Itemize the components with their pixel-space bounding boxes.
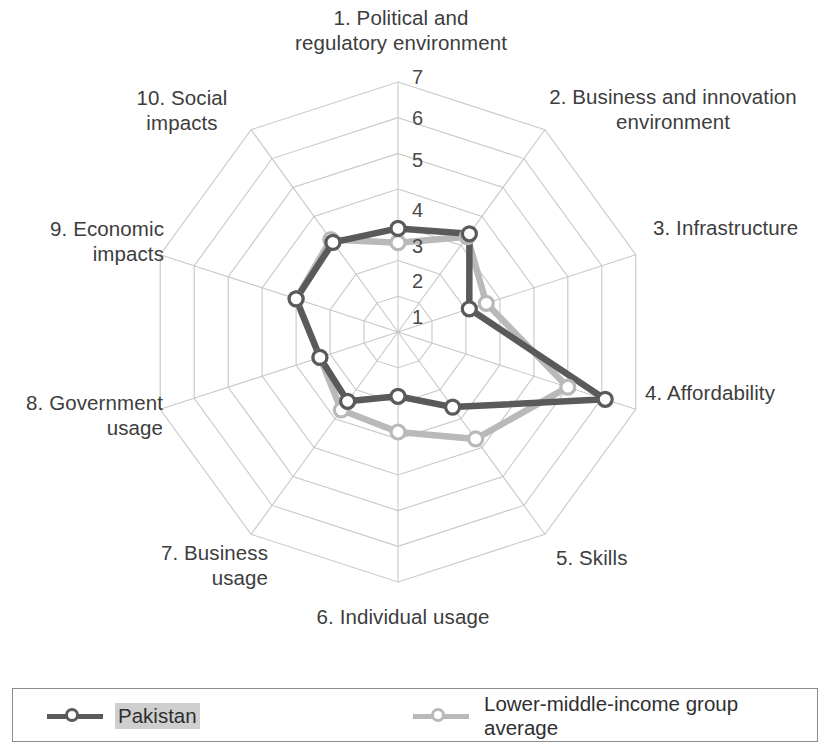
data-point-marker [391,221,405,235]
data-point-marker [561,380,575,394]
legend-item-pakistan: Pakistan [47,689,200,743]
grid-spoke-9 [160,255,398,332]
axis-label-infrastructure: 3. Infrastructure [653,215,833,240]
axis-label-skills: 5. Skills [556,545,706,570]
tick-label-1: 1 [412,307,423,327]
tick-label-4: 4 [412,200,423,220]
data-point-marker [391,236,405,250]
axis-label-government-usage: 8. Government usage [0,390,163,440]
axis-label-economic-impacts: 9. Economic impacts [4,216,164,266]
axis-label-social-impacts: 10. Social impacts [112,85,252,135]
axis-label-affordability: 4. Affordability [645,380,833,405]
legend-label-pakistan: Pakistan [115,703,200,729]
chart-legend: Pakistan Lower-middle-income group avera… [12,688,818,742]
axis-label-business-innovation-environment: 2. Business and innovation environment [527,84,819,134]
data-point-marker [446,400,460,414]
data-point-marker [391,425,405,439]
data-point-marker [598,392,612,406]
axis-label-political-regulatory-environment: 1. Political and regulatory environment [286,5,516,55]
data-point-marker [462,302,476,316]
legend-label-lower-middle-income: Lower-middle-income group average [481,691,817,741]
data-point-marker [469,432,483,446]
radar-chart-figure: 1 2 3 4 5 6 7 1. Political and regulator… [0,0,833,754]
data-point-marker [391,389,405,403]
data-point-marker [326,235,340,249]
tick-label-5: 5 [412,150,423,170]
legend-item-lower-middle-income: Lower-middle-income group average [413,689,817,743]
tick-label-2: 2 [412,271,423,291]
legend-swatch-pakistan [47,705,103,727]
data-point-marker [462,227,476,241]
tick-label-7: 7 [412,67,423,87]
legend-swatch-lower-middle-income [413,705,469,727]
data-point-marker [479,296,493,310]
tick-label-6: 6 [412,108,423,128]
axis-label-individual-usage: 6. Individual usage [283,604,523,629]
data-point-marker [289,292,303,306]
data-point-marker [341,394,355,408]
tick-label-3: 3 [412,236,423,256]
data-point-marker [313,350,327,364]
grid-spoke-3 [398,255,636,332]
axis-label-business-usage: 7. Business usage [108,540,268,590]
